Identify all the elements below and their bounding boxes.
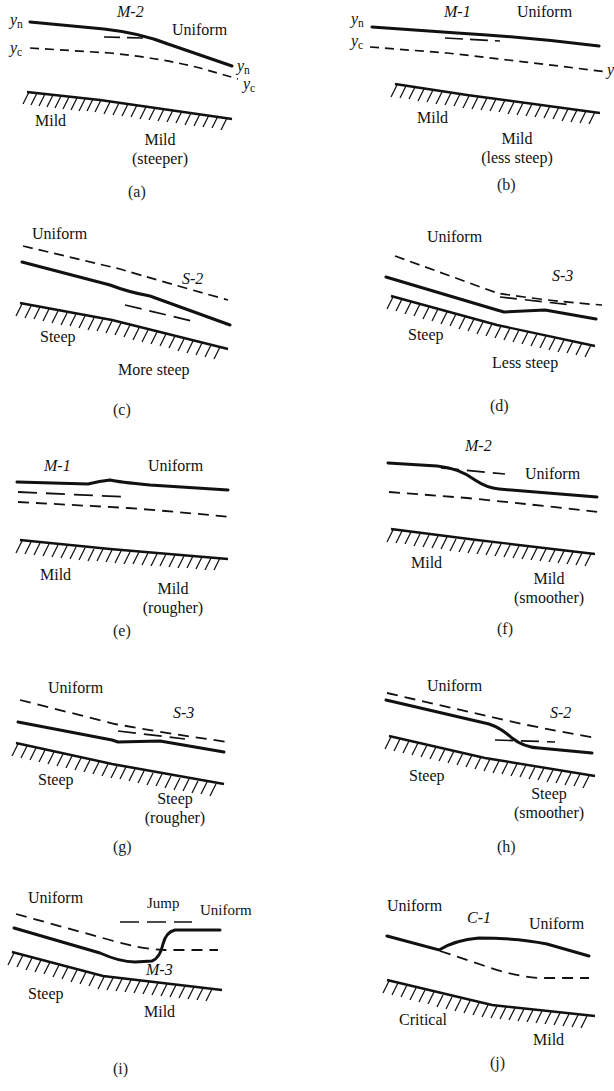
panel-d-profile-label: S-3 [552,268,573,284]
panel-b: yn yc y M-1 Uniform Mild Mild(less steep… [307,0,614,210]
panel-e-bed-right-label: Mild(rougher) [118,580,228,618]
water-surface-line [14,928,220,962]
panel-g-letter: (g) [113,838,132,856]
profile-marker-dash [445,38,500,41]
panel-c-bed-right-label: More steep [118,362,190,378]
profile-marker-dash [104,37,143,38]
panel-d-bed-left-label: Steep [408,327,444,343]
panel-i-uniform-right-label: Uniform [200,903,252,918]
panel-g-uniform-label: Uniform [48,680,103,696]
panel-a-bed-left-label: Mild [35,113,66,129]
panel-c-uniform-label: Uniform [32,226,87,242]
panel-d-letter: (d) [490,397,509,415]
panel-g-bed-right-label: Steep(rougher) [120,790,230,828]
water-surface-line [372,27,599,46]
uniform-depth-line [20,700,228,742]
panel-j-profile-label: C-1 [467,910,491,926]
panel-j-bed-left-label: Critical [399,1012,447,1028]
panel-g-bed-left-label: Steep [38,772,74,788]
panel-a-letter: (a) [128,183,146,201]
panel-f-bed-right-label: Mild(smoother) [489,570,609,608]
panel-a-yn-right-label: yn [237,58,250,77]
panel-b-bed-left-label: Mild [417,110,448,126]
panel-c: Uniform S-2 Steep More steep (c) [0,215,307,430]
panel-e-uniform-label: Uniform [148,458,203,474]
panel-g-profile-label: S-3 [173,705,194,721]
profile-marker-dash [118,731,185,739]
panel-a: yn yc yn yc M-2 Uniform Mild Mild(steepe… [0,0,307,210]
panel-b-uniform-label: Uniform [517,4,572,20]
panel-a-bed-right-label: Mild(steeper) [115,131,205,169]
panel-b-yn-left-label: yn [351,11,364,30]
panel-f-profile-label: M-2 [465,438,492,454]
channel-bed-line [391,529,595,554]
panel-i-bed-right-label: Mild [144,1004,175,1020]
panel-h-uniform-label: Uniform [427,678,482,694]
panel-h-bed-right-label: Steep(smoother) [489,785,609,823]
critical-depth-line [370,47,607,72]
panel-d: Uniform S-3 Steep Less steep (d) [307,215,614,430]
panel-i-bed-left-label: Steep [28,986,64,1002]
panel-b-profile-label: M-1 [444,4,471,20]
panel-b-bed-right-label: Mild(less steep) [457,130,577,168]
panel-j-letter: (j) [490,1054,505,1072]
water-surface-line [387,936,589,956]
panel-i-letter: (i) [113,1060,128,1078]
bed-hatching [12,744,216,796]
panel-h-profile-label: S-2 [550,705,571,721]
panel-j-bed-right-label: Mild [533,1032,564,1048]
channel-bed-line [20,540,228,559]
water-surface-line [17,480,228,490]
normal-depth-line [18,492,128,497]
panel-f-letter: (f) [497,620,513,638]
water-surface-line [18,722,224,752]
panel-b-letter: (b) [497,176,516,194]
panel-e-bed-left-label: Mild [40,567,71,583]
panel-c-letter: (c) [113,401,131,419]
panel-i-profile-label: M-3 [146,962,173,978]
panel-i: Uniform Jump Uniform M-3 Steep Mild (i) [0,860,307,1091]
panel-a-uniform-label: Uniform [172,22,227,38]
critical-depth-line [30,48,238,79]
panel-h-bed-left-label: Steep [409,768,445,784]
panel-c-bed-left-label: Steep [40,329,76,345]
profile-marker-dash [495,740,555,742]
panel-a-yc-left-label: yc [10,40,22,59]
panel-f: M-2 Uniform Mild Mild(smoother) (f) [307,430,614,650]
panel-b-yc-left-label: yc [351,33,363,52]
panel-d-bed-right-label: Less steep [492,355,558,371]
critical-depth-line [16,914,218,950]
panel-j-uniform-right-label: Uniform [529,916,584,932]
panel-e-profile-label: M-1 [44,458,71,474]
critical-depth-line [440,951,589,978]
panel-i-uniform-left-label: Uniform [28,890,83,906]
panel-h-letter: (h) [497,838,516,856]
panel-h: Uniform S-2 Steep Steep(smoother) (h) [307,650,614,870]
panel-j: Uniform C-1 Uniform Critical Mild (j) [307,860,614,1091]
panel-d-uniform-label: Uniform [427,229,482,245]
panel-c-profile-label: S-2 [182,271,203,287]
panel-g: Uniform S-3 Steep Steep(rougher) (g) [0,650,307,870]
panel-a-profile-label: M-2 [117,4,144,20]
panel-a-yc-right-label: yc [243,76,255,95]
panel-j-drawing [307,860,614,1050]
panel-f-bed-left-label: Mild [411,555,442,571]
panel-e: M-1 Uniform Mild Mild(rougher) (e) [0,430,307,650]
panel-i-jump-label: Jump [147,896,180,911]
profile-marker-dash [441,468,505,474]
figure-water-surface-profiles: yn yc yn yc M-2 Uniform Mild Mild(steepe… [0,0,614,1091]
panel-e-letter: (e) [113,622,131,640]
critical-depth-line [18,502,230,517]
panel-f-uniform-label: Uniform [525,466,580,482]
panel-j-uniform-left-label: Uniform [387,898,442,914]
panel-b-y-right-label: y [607,62,614,78]
panel-a-yn-left-label: yn [10,12,23,31]
